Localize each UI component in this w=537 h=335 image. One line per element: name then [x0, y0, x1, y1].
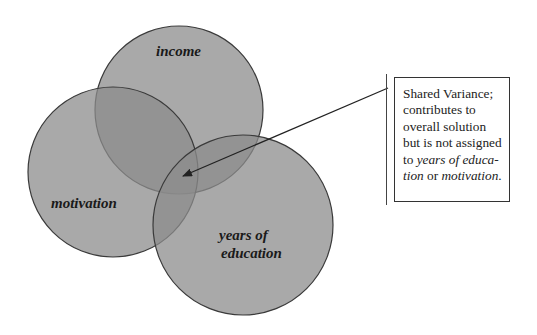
label-years-of-education: education: [221, 245, 282, 261]
callout-text: or: [424, 168, 442, 183]
circles-layer: [28, 26, 333, 315]
callout-line: overall solution: [403, 119, 505, 135]
callout-text: overall solution: [403, 119, 486, 134]
callout-line: Shared Variance;: [403, 86, 505, 102]
callout-text: to: [403, 152, 417, 167]
circle-years-of-education: [153, 135, 333, 315]
callout-text: but is not assigned: [403, 135, 502, 150]
label-income: income: [156, 43, 201, 59]
callout-side-rule: [386, 74, 387, 205]
callout-italic-term: motivation: [441, 168, 498, 183]
callout-italic-term: tion: [403, 168, 424, 183]
callout-text: contributes to: [403, 102, 476, 117]
shared-variance-callout: Shared Variance;contributes tooverall so…: [394, 77, 510, 202]
callout-text: Shared Variance;: [403, 86, 493, 101]
label-motivation: motivation: [51, 195, 117, 211]
callout-text: .: [498, 168, 501, 183]
callout-italic-term: years of educa-: [417, 152, 499, 167]
callout-line: contributes to: [403, 102, 505, 118]
callout-line: tion or motivation.: [403, 168, 505, 184]
callout-line: but is not assigned: [403, 135, 505, 151]
callout-line: to years of educa-: [403, 152, 505, 168]
label-years-of-education: years of: [217, 227, 270, 243]
